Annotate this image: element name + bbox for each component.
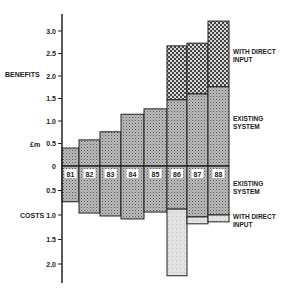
bar-benefit-existing-82 bbox=[79, 140, 100, 166]
legend-benefits-existing: SYSTEM bbox=[233, 123, 260, 130]
year-label-81: 81 bbox=[67, 171, 75, 178]
legend-costs-direct: WITH DIRECT bbox=[233, 213, 276, 220]
bar-benefit-existing-83 bbox=[100, 132, 121, 166]
benefits-costs-chart: 00.51.01.52.02.53.00.51.01.52.0 81828384… bbox=[0, 0, 290, 302]
legend-costs-existing: EXISTING bbox=[233, 180, 263, 187]
year-label-82: 82 bbox=[86, 171, 94, 178]
bar-benefit-direct-87 bbox=[187, 43, 208, 94]
year-label-84: 84 bbox=[129, 171, 137, 178]
tick-label: 0.5 bbox=[46, 140, 56, 147]
benefits-label: BENEFITS bbox=[5, 71, 40, 78]
tick-label: 2.0 bbox=[46, 73, 56, 80]
bar-cost-direct-86 bbox=[167, 209, 187, 276]
tick-label: 3.0 bbox=[46, 28, 56, 35]
tick-label: 0 bbox=[52, 163, 56, 170]
tick-label: 1.0 bbox=[46, 118, 56, 125]
tick-label: 1.0 bbox=[46, 212, 56, 219]
bar-benefit-existing-84 bbox=[121, 114, 144, 166]
currency-label: £m bbox=[30, 141, 40, 148]
legend-benefits-direct: INPUT bbox=[233, 56, 253, 63]
costs-label: COSTS bbox=[20, 212, 44, 219]
legend-benefits-direct: WITH DIRECT bbox=[233, 48, 276, 55]
year-label-83: 83 bbox=[107, 171, 115, 178]
bar-benefit-direct-86 bbox=[167, 46, 187, 100]
tick-label: 2.0 bbox=[46, 261, 56, 268]
bar-benefit-existing-81 bbox=[62, 148, 79, 166]
legend-costs-existing: SYSTEM bbox=[233, 188, 260, 195]
bar-cost-direct-87 bbox=[187, 217, 208, 224]
year-label-88: 88 bbox=[215, 171, 223, 178]
tick-label: 2.5 bbox=[46, 50, 56, 57]
tick-label: 1.5 bbox=[46, 236, 56, 243]
year-label-85: 85 bbox=[152, 171, 160, 178]
bar-benefit-existing-88 bbox=[208, 87, 229, 166]
bars-group bbox=[62, 21, 229, 276]
tick-label: 1.5 bbox=[46, 95, 56, 102]
bar-benefit-direct-88 bbox=[208, 21, 229, 87]
legend-costs-direct: INPUT bbox=[233, 221, 253, 228]
legend-benefits-existing: EXISTING bbox=[233, 115, 263, 122]
year-label-87: 87 bbox=[194, 171, 202, 178]
bar-benefit-existing-87 bbox=[187, 94, 208, 166]
bar-benefit-existing-86 bbox=[167, 100, 187, 166]
bar-cost-direct-88 bbox=[208, 215, 229, 222]
tick-label: 0.5 bbox=[46, 187, 56, 194]
bar-benefit-existing-85 bbox=[144, 109, 167, 166]
year-label-86: 86 bbox=[173, 171, 181, 178]
